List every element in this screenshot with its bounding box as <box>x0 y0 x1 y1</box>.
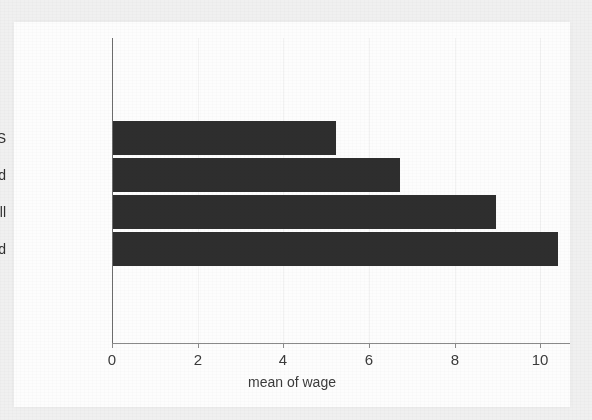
tick-mark-4 <box>283 343 284 348</box>
y-axis-line <box>112 38 113 344</box>
x-axis-line <box>112 343 570 344</box>
clipped-caption-strip: p g g g p <box>0 0 592 9</box>
x-tick-label-0: 0 <box>92 351 132 368</box>
category-label-some-coll: Some Coll <box>0 204 6 220</box>
category-label-not-hs: Not HS <box>0 130 6 146</box>
clipped-caption-text: p g g g p <box>6 0 92 1</box>
bar-hs-grad <box>112 158 400 192</box>
gridline-8 <box>455 38 456 343</box>
tick-mark-10 <box>540 343 541 348</box>
bar-some-coll <box>112 195 496 229</box>
x-tick-label-10: 10 <box>520 351 560 368</box>
tick-mark-8 <box>455 343 456 348</box>
tick-mark-2 <box>198 343 199 348</box>
x-tick-label-6: 6 <box>349 351 389 368</box>
scanned-page: p g g g p Not HS HS Grad Some Coll Coll … <box>0 0 592 420</box>
gridline-10 <box>540 38 541 343</box>
x-tick-label-8: 8 <box>435 351 475 368</box>
x-tick-label-4: 4 <box>263 351 303 368</box>
figure-panel: Not HS HS Grad Some Coll Coll Grad 0 2 4… <box>14 22 570 407</box>
bar-chart-plot-area: Not HS HS Grad Some Coll Coll Grad 0 2 4… <box>14 22 570 407</box>
x-tick-label-2: 2 <box>178 351 218 368</box>
tick-mark-6 <box>369 343 370 348</box>
tick-mark-0 <box>112 343 113 348</box>
category-label-hs-grad: HS Grad <box>0 167 6 183</box>
x-axis-title: mean of wage <box>14 374 570 390</box>
bar-not-hs <box>112 121 336 155</box>
bar-coll-grad <box>112 232 558 266</box>
category-label-coll-grad: Coll Grad <box>0 241 6 257</box>
